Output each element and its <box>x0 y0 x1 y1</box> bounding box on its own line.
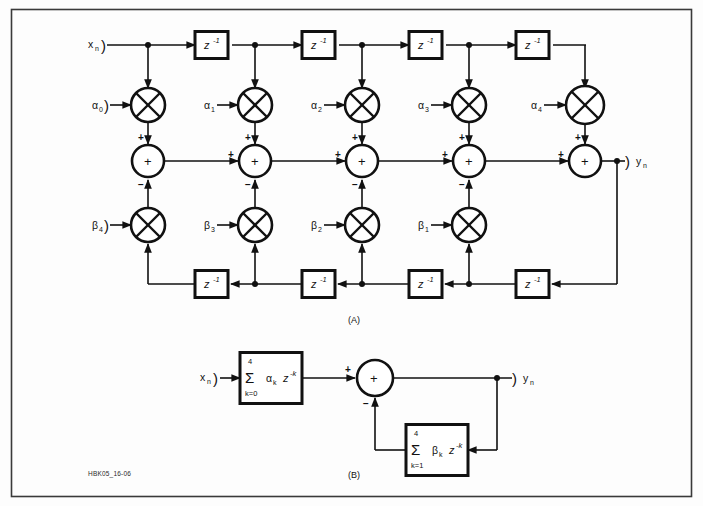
delay-block-bottom-3-exponent: -1 <box>427 275 434 284</box>
signal-flow-diagram: z -1 z -1 z -1 z -1 <box>0 0 703 506</box>
coef-sub-alpha-2: 2 <box>318 106 322 113</box>
figure-id-label: HBK05_16-06 <box>88 470 131 478</box>
delay-block-bottom-3 <box>409 271 442 298</box>
input-brace: ) <box>101 37 106 54</box>
adder-4-left-sign: + <box>442 149 448 160</box>
panel-a-feedback-multipliers: β 4 ) β 3 β 2 <box>92 208 486 242</box>
feedback-block-sigma: Σ <box>411 441 420 458</box>
panel-a-caption: (A) <box>348 315 360 325</box>
delay-block-top-1-exponent: -1 <box>213 36 220 45</box>
forward-block-sigma: Σ <box>245 369 254 386</box>
coef-label-alpha-1: α <box>204 99 210 111</box>
coef-sub-alpha-0: 0 <box>99 106 103 113</box>
figure-border <box>12 10 692 497</box>
panel-a-feedforward-multipliers: α 0 ) α 1 α 2 <box>92 86 604 124</box>
adder-1-top-sign: + <box>138 132 144 143</box>
delay-block-top-1 <box>195 32 228 59</box>
panel-b-input-brace: ) <box>213 370 218 387</box>
panel-a-adders: + + − + + − + + + − + + + − + + <box>132 132 625 190</box>
delay-block-top-2-exponent: -1 <box>320 36 327 45</box>
coef-sub-alpha-4: 4 <box>538 106 542 113</box>
forward-block-coef-subscript: k <box>273 379 277 386</box>
coef-sub-beta-2: 2 <box>318 226 322 233</box>
delay-block-top-2 <box>302 32 335 59</box>
adder-1-symbol: + <box>144 154 152 169</box>
delay-block-bottom-4-exponent: -1 <box>534 275 541 284</box>
panel-a-input-label: x n ) <box>88 37 106 54</box>
adder-3-left-sign: + <box>335 149 341 160</box>
delay-block-bottom-1-exponent: -1 <box>213 275 220 284</box>
coef-label-alpha-4: α <box>531 99 537 111</box>
coef-sub-alpha-1: 1 <box>211 106 215 113</box>
panel-a-forward-delay-line: z -1 z -1 z -1 z -1 <box>107 32 586 89</box>
delay-block-top-3-label: z <box>417 39 424 51</box>
delay-block-top-3-exponent: -1 <box>427 36 434 45</box>
delay-block-bottom-4 <box>516 271 549 298</box>
input-label-x-subscript: n <box>95 45 99 52</box>
panel-a-output-label: ) y n <box>625 153 647 170</box>
forward-block-upper-limit: 4 <box>248 357 252 366</box>
feedback-block-lower-limit: k=1 <box>411 461 423 470</box>
adder-5-left-sign: + <box>558 149 564 160</box>
delay-block-top-4 <box>516 32 549 59</box>
delay-block-bottom-3-label: z <box>417 278 424 290</box>
adder-2-top-sign: + <box>245 132 251 143</box>
coef-label-beta-4: β <box>92 219 98 231</box>
panel-b-output-label-y: y <box>523 372 529 384</box>
coef-label-beta-1: β <box>418 219 424 231</box>
coef-label-alpha-0: α <box>92 99 98 111</box>
panel-a-feedback-to-adder-wires <box>148 180 469 208</box>
feedback-block-delay: z <box>448 444 455 456</box>
coef-brace-beta-4: ) <box>104 217 109 234</box>
panel-b-output-brace: ) <box>512 370 517 387</box>
panel-b-output-label-y-subscript: n <box>530 379 534 386</box>
delay-block-top-4-exponent: -1 <box>534 36 541 45</box>
delay-block-bottom-4-label: z <box>524 278 531 290</box>
forward-block-delay: z <box>282 372 289 384</box>
adder-5-top-sign: + <box>575 132 581 143</box>
output-brace: ) <box>625 153 630 170</box>
forward-block-lower-limit: k=0 <box>245 389 257 398</box>
panel-b: x n ) 4 Σ k=0 α k z -k + + − ) y n <box>200 353 534 481</box>
coef-label-beta-2: β <box>311 219 317 231</box>
feedback-block-upper-limit: 4 <box>414 429 418 438</box>
input-label-x: x <box>88 38 94 50</box>
panel-a-mult-to-adder-wires <box>148 122 585 144</box>
adder-5-symbol: + <box>581 154 589 169</box>
delay-block-bottom-1 <box>195 271 228 298</box>
adder-1-bottom-sign: − <box>138 179 144 190</box>
delay-block-top-4-label: z <box>524 39 531 51</box>
adder-4-top-sign: + <box>459 132 465 143</box>
coef-sub-beta-1: 1 <box>425 226 429 233</box>
coef-brace-alpha-0: ) <box>104 97 109 114</box>
adder-3-bottom-sign: − <box>352 179 358 190</box>
delay-block-bottom-2 <box>302 271 335 298</box>
panel-b-adder-bottom-sign: − <box>363 398 369 409</box>
panel-a-feedback-delay-line: z -1 z -1 z -1 z -1 <box>148 161 617 298</box>
delay-block-bottom-1-label: z <box>203 278 210 290</box>
feedback-block-coef-subscript: k <box>439 451 443 458</box>
delay-block-top-2-label: z <box>310 39 317 51</box>
delay-block-top-1-label: z <box>203 39 210 51</box>
coef-sub-alpha-3: 3 <box>425 106 429 113</box>
feedback-block-coef: β <box>432 444 438 456</box>
coef-sub-beta-3: 3 <box>211 226 215 233</box>
delay-block-bottom-2-label: z <box>310 278 317 290</box>
coef-label-beta-3: β <box>204 219 210 231</box>
panel-b-input-label-x: x <box>200 371 206 383</box>
figure-root: z -1 z -1 z -1 z -1 <box>0 0 703 506</box>
panel-b-input-label-x-subscript: n <box>207 378 211 385</box>
adder-4-symbol: + <box>465 154 473 169</box>
panel-b-caption: (B) <box>348 470 360 480</box>
adder-3-symbol: + <box>358 154 366 169</box>
coef-label-alpha-2: α <box>311 99 317 111</box>
coef-label-alpha-3: α <box>418 99 424 111</box>
panel-a: z -1 z -1 z -1 z -1 <box>88 32 647 326</box>
output-label-y: y <box>636 155 642 167</box>
panel-b-adder-left-sign: + <box>345 364 351 375</box>
forward-block-coef: α <box>266 372 272 384</box>
adder-2-symbol: + <box>251 154 259 169</box>
adder-4-bottom-sign: − <box>459 179 465 190</box>
coef-sub-beta-4: 4 <box>99 226 103 233</box>
adder-2-bottom-sign: − <box>245 179 251 190</box>
